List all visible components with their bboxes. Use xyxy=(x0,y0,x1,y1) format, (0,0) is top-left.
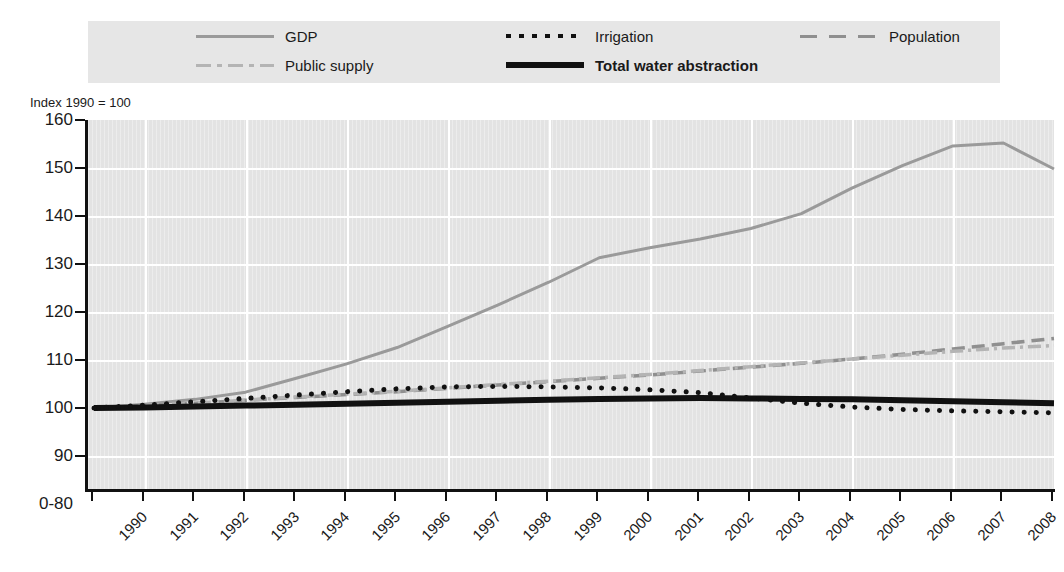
x-axis-tick-mark xyxy=(596,492,598,501)
y-axis-tick-label: 120 xyxy=(45,302,73,322)
x-axis-tick-label: 1991 xyxy=(165,508,201,544)
y-axis-tick-label: 90 xyxy=(54,446,73,466)
y-axis-tick-mark xyxy=(75,455,85,457)
x-axis-tick-mark xyxy=(798,492,800,501)
x-axis-tick-mark xyxy=(1000,492,1002,501)
y-axis-tick-label: 150 xyxy=(45,158,73,178)
x-axis-tick-mark xyxy=(1051,492,1053,501)
x-axis-tick-mark xyxy=(495,492,497,501)
x-axis-tick-label: 2002 xyxy=(721,508,757,544)
x-axis-tick-label: 2007 xyxy=(974,508,1010,544)
chart-plot-wrapper: 160150140130120110100900-80 199019911992… xyxy=(0,0,1064,572)
y-axis-tick-mark xyxy=(75,407,85,409)
x-axis-tick-mark xyxy=(546,492,548,501)
x-axis-tick-mark xyxy=(293,492,295,501)
x-axis-tick-mark xyxy=(445,492,447,501)
x-axis-tick-mark xyxy=(647,492,649,501)
x-axis-tick-mark xyxy=(243,492,245,501)
x-axis-tick-label: 1998 xyxy=(519,508,555,544)
y-axis-tick-label: 140 xyxy=(45,206,73,226)
x-axis-tick-mark xyxy=(91,492,93,501)
x-axis-tick-label: 1995 xyxy=(367,508,403,544)
y-axis-tick-mark xyxy=(75,167,85,169)
x-axis-tick-mark xyxy=(192,492,194,501)
plot-area xyxy=(85,120,1055,492)
y-axis-tick-mark xyxy=(75,311,85,313)
y-axis-tick-mark xyxy=(75,263,85,265)
x-axis-tick-label: 1994 xyxy=(317,508,353,544)
x-axis-tick-label: 1999 xyxy=(570,508,606,544)
x-axis-tick-label: 2004 xyxy=(822,508,858,544)
y-axis-labels: 160150140130120110100900-80 xyxy=(0,0,85,572)
x-axis-tick-label: 1990 xyxy=(115,508,151,544)
y-axis-tick-mark xyxy=(75,215,85,217)
x-axis-tick-mark xyxy=(142,492,144,501)
y-axis-tick-label: 130 xyxy=(45,254,73,274)
x-axis-tick-mark xyxy=(748,492,750,501)
x-axis-tick-label: 2005 xyxy=(873,508,909,544)
x-axis-tick-mark xyxy=(899,492,901,501)
x-axis-tick-label: 1993 xyxy=(266,508,302,544)
x-axis-tick-label: 1992 xyxy=(216,508,252,544)
y-axis-tick-mark xyxy=(75,359,85,361)
chart-caption-strip xyxy=(0,560,1064,572)
series-lines xyxy=(88,120,1055,492)
y-axis-tick-mark xyxy=(75,119,85,121)
x-axis-tick-mark xyxy=(344,492,346,501)
y-axis-tick-label: 0-80 xyxy=(39,494,73,514)
y-axis-tick-label: 160 xyxy=(45,110,73,130)
x-axis-tick-label: 1996 xyxy=(418,508,454,544)
x-axis-tick-label: 2006 xyxy=(923,508,959,544)
x-axis-tick-label: 2000 xyxy=(620,508,656,544)
x-axis-tick-mark xyxy=(849,492,851,501)
series-line-gdp xyxy=(94,143,1054,408)
y-axis-tick-label: 110 xyxy=(46,350,73,370)
x-axis-tick-mark xyxy=(950,492,952,501)
y-axis-tick-label: 100 xyxy=(45,398,73,418)
x-axis-tick-label: 2008 xyxy=(1024,508,1060,544)
x-axis-tick-label: 1997 xyxy=(468,508,504,544)
x-axis-tick-mark xyxy=(394,492,396,501)
x-axis-tick-label: 2001 xyxy=(671,508,707,544)
x-axis-tick-mark xyxy=(697,492,699,501)
x-axis-tick-label: 2003 xyxy=(772,508,808,544)
